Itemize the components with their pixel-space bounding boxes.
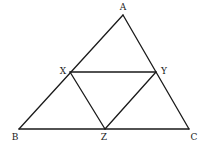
segment-yz	[105, 72, 156, 129]
vertex-label-y: Y	[160, 66, 168, 76]
vertex-label-z: Z	[101, 132, 107, 142]
segment-zx	[70, 72, 105, 129]
triangle-diagram: A B C X Y Z	[0, 0, 205, 147]
vertex-label-c: C	[191, 132, 198, 142]
vertex-label-x: X	[60, 66, 67, 76]
vertex-label-b: B	[12, 132, 19, 142]
vertex-label-a: A	[119, 2, 127, 12]
